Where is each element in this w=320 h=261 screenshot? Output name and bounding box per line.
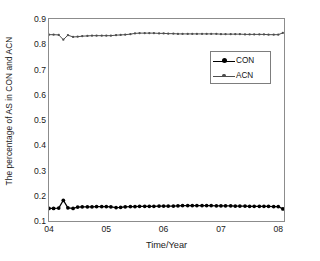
plot-area [48,18,285,222]
data-point [119,206,123,210]
data-point [67,34,69,36]
data-point [181,204,185,208]
data-point [148,32,150,34]
chart-legend[interactable]: CON ACN [210,51,271,84]
data-point [167,33,169,35]
data-point [248,205,252,209]
data-point [209,204,213,208]
data-point [147,205,151,209]
data-point [138,32,140,34]
data-point [248,33,250,35]
data-point [215,204,219,208]
y-tick-label: 0.7 [20,65,46,75]
data-point [120,34,122,36]
data-point [172,33,174,35]
data-point [262,205,266,209]
data-point [187,33,189,35]
data-point [62,39,64,41]
data-point [276,205,280,209]
data-point [124,34,126,36]
data-point [81,35,83,37]
x-tick-label: 06 [152,224,176,234]
data-point [52,207,56,211]
data-point [215,33,217,35]
series-line [49,33,283,40]
legend-label-acn: ACN [235,72,253,80]
data-point [253,33,255,35]
y-tick-label: 0.6 [20,90,46,100]
data-point [201,33,203,35]
data-point [90,205,94,209]
data-point [195,204,199,208]
data-point [138,205,142,209]
data-point [80,205,84,209]
data-point [114,206,118,210]
data-point [71,207,75,211]
data-point [61,198,65,202]
data-point [258,205,262,209]
data-point [109,205,113,209]
data-point [152,205,156,209]
data-point [267,34,269,36]
y-tick-label: 0.2 [20,191,46,201]
data-point [91,35,93,37]
data-point [239,33,241,35]
x-tick-label: 05 [94,224,118,234]
data-point [181,33,183,35]
data-point [238,204,242,208]
y-tick-label: 0.5 [20,115,46,125]
data-point [220,33,222,35]
x-tick-label: 08 [266,224,290,234]
data-point [58,34,60,36]
data-point [233,204,237,208]
data-point [219,204,223,208]
data-point [104,205,108,209]
data-point [229,204,233,208]
data-point [52,34,54,36]
data-point [100,205,104,209]
data-series-layer [49,19,284,221]
data-point [77,36,79,38]
data-point [66,206,70,210]
data-point [267,205,271,209]
data-point [190,204,194,208]
y-tick-label: 0.4 [20,140,46,150]
x-tick-label: 04 [37,224,61,234]
data-point [162,32,164,34]
data-point [224,204,228,208]
data-point [186,204,190,208]
legend-item-con[interactable]: CON [213,54,270,68]
x-axis-title: Time/Year [48,240,285,250]
series-line [49,200,283,209]
series-con [49,198,284,210]
data-point [200,204,204,208]
data-point [191,33,193,35]
data-point [243,204,247,208]
legend-item-acn[interactable]: ACN [213,69,270,83]
data-point [101,35,103,37]
data-point [172,204,176,208]
data-point [205,204,209,208]
x-tick-label: 07 [209,224,233,234]
data-point [196,33,198,35]
data-point [282,32,284,34]
data-point [277,34,279,36]
data-point [95,35,97,37]
legend-swatch-con [213,56,235,66]
data-point [134,32,136,34]
data-point [49,34,50,36]
y-tick-label: 0.8 [20,39,46,49]
plot-inner [49,19,284,221]
data-point [230,33,232,35]
data-point [86,35,88,37]
data-point [105,35,107,37]
data-point [158,32,160,34]
data-point [210,33,212,35]
legend-label-con: CON [235,57,254,65]
data-point [177,33,179,35]
y-tick-label: 0.3 [20,166,46,176]
data-point [129,205,133,209]
data-point [162,204,166,208]
data-point [76,205,80,209]
data-point [176,204,180,208]
